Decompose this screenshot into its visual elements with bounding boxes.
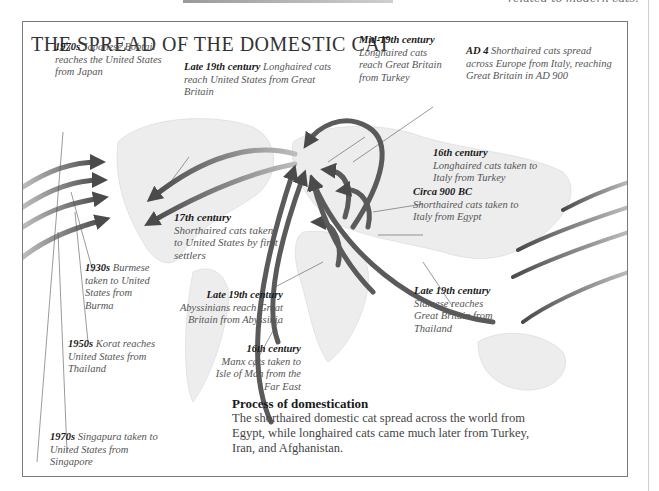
label-burmese: 1930s Burmese taken to United States fro… (85, 262, 160, 312)
label-japanese-bobtail: 1970s Japanese Bobtail reaches the Unite… (55, 41, 170, 79)
process-body: The shorthaired domestic cat spread acro… (232, 411, 532, 456)
label-shorthaired-us: 17th centuryShorthaired cats taken to Un… (174, 211, 284, 261)
label-korat: 1950s Korat reaches United States from T… (68, 338, 168, 376)
label-shorthaired-italy: Circa 900 BCShorthaired cats taken to It… (413, 186, 523, 224)
label-longhaired-us: Late 19th century Longhaired cats reach … (184, 61, 334, 99)
label-abyssinians: Late 19th centuryAbyssinians reach Great… (173, 289, 283, 327)
label-siamese: Late 19th centurySiamese reaches Great B… (414, 285, 504, 335)
process-heading: Process of domestication (232, 396, 532, 411)
cat-spread-diagram: THE SPREAD OF THE DOMESTIC CAT (22, 21, 628, 477)
label-manx: 16th centuryManx cats taken to Isle of M… (208, 343, 301, 393)
label-longhaired-gb: Mid-19th centuryLonghaired cats reach Gr… (359, 34, 449, 84)
top-divider-bar (183, 0, 393, 3)
label-singapura: 1970s Singapura taken to United States f… (50, 431, 160, 469)
label-shorthaired-europe: AD 4 Shorthaired cats spread across Euro… (466, 45, 616, 83)
page-edge-rule (648, 0, 649, 491)
previous-page-caption: related to modern cats. (508, 0, 639, 5)
process-of-domestication: Process of domestication The shorthaired… (232, 396, 532, 456)
label-longhaired-italy: 16th centuryLonghaired cats taken to Ita… (433, 147, 548, 185)
arrows-to-united-states (23, 162, 103, 257)
